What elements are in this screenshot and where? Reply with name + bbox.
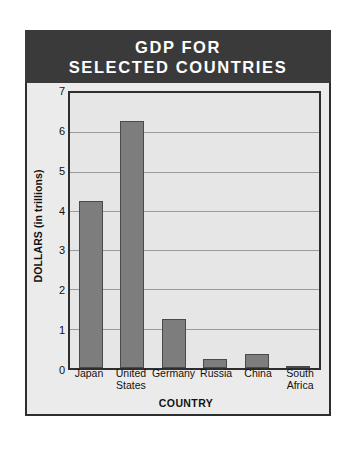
x-tick-label-line: Germany bbox=[152, 368, 195, 380]
x-tick-label-line: Japan bbox=[68, 368, 110, 380]
x-tick-label: Germany bbox=[152, 368, 195, 380]
chart-title-banner: GDP FOR SELECTED COUNTRIES bbox=[25, 30, 331, 83]
y-tick-labels: 01234567 bbox=[51, 91, 67, 370]
x-tick-label: UnitedStates bbox=[110, 368, 152, 391]
bar bbox=[79, 201, 103, 368]
bar bbox=[245, 354, 269, 368]
x-axis-title: COUNTRY bbox=[51, 397, 321, 409]
y-tick-label: 0 bbox=[59, 365, 65, 376]
chart-title-line-2: SELECTED COUNTRIES bbox=[69, 57, 288, 77]
x-tick-label: Russia bbox=[195, 368, 237, 380]
x-tick-labels: JapanUnitedStatesGermanyRussiaChinaSouth… bbox=[68, 368, 321, 394]
y-axis-title-text: DOLLARS (in trillions) bbox=[32, 169, 44, 282]
bar bbox=[162, 319, 186, 368]
y-axis-title: DOLLARS (in trillions) bbox=[25, 83, 51, 368]
plot-wrapper: 01234567 bbox=[51, 91, 321, 370]
y-tick-label: 6 bbox=[59, 125, 65, 136]
x-tick-label-line: South bbox=[279, 368, 321, 380]
x-tick-label: SouthAfrica bbox=[279, 368, 321, 391]
y-tick-label: 1 bbox=[59, 325, 65, 336]
x-tick-label: Japan bbox=[68, 368, 110, 380]
chart-figure: GDP FOR SELECTED COUNTRIES DOLLARS (in t… bbox=[25, 30, 331, 416]
bar-series bbox=[70, 93, 319, 368]
x-tick-label-line: China bbox=[237, 368, 279, 380]
plot-area bbox=[68, 91, 321, 370]
chart-panel: DOLLARS (in trillions) 01234567 JapanUni… bbox=[25, 83, 331, 416]
x-tick-label-line: Russia bbox=[195, 368, 237, 380]
x-tick-label-line: Africa bbox=[279, 380, 321, 392]
x-tick-label: China bbox=[237, 368, 279, 380]
chart-title-line-1: GDP FOR bbox=[135, 37, 221, 57]
y-tick-label: 4 bbox=[59, 205, 65, 216]
x-tick-label-line: United bbox=[110, 368, 152, 380]
y-tick-label: 5 bbox=[59, 165, 65, 176]
y-tick-label: 2 bbox=[59, 285, 65, 296]
y-tick-label: 7 bbox=[59, 86, 65, 97]
x-tick-label-line: States bbox=[110, 380, 152, 392]
bar bbox=[120, 121, 144, 369]
y-tick-label: 3 bbox=[59, 245, 65, 256]
